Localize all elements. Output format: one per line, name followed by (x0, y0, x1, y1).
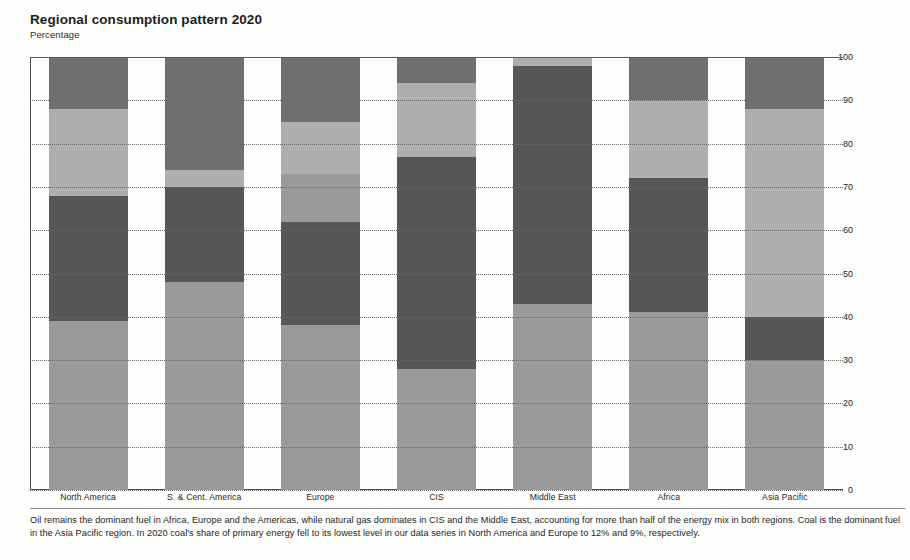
bar-segment-nuclear[interactable] (281, 122, 360, 174)
bar-group-cis[interactable] (378, 57, 494, 490)
stacked-bar[interactable] (165, 57, 244, 490)
stacked-bar[interactable] (397, 57, 476, 490)
bar-segment-oil[interactable] (745, 360, 824, 490)
bar-group-europe[interactable] (262, 57, 378, 490)
x-axis: North AmericaS. & Cent. AmericaEuropeCIS… (30, 492, 843, 502)
chart-subtitle: Percentage (30, 29, 262, 40)
bar-segment-hydro-renewables[interactable] (281, 57, 360, 122)
bar-segment-hydro-renewables[interactable] (629, 57, 708, 100)
stacked-bar[interactable] (745, 57, 824, 490)
bar-segment-nuclear[interactable] (49, 109, 128, 196)
x-label-europe: Europe (262, 492, 378, 502)
bar-group-north-america[interactable] (30, 57, 146, 490)
bar-segment-natural-gas[interactable] (49, 196, 128, 322)
bar-segment-hydro-renewables[interactable] (165, 57, 244, 170)
stacked-bar[interactable] (49, 57, 128, 490)
bar-group-africa[interactable] (611, 57, 727, 490)
bar-group-middle-east[interactable] (495, 57, 611, 490)
x-label-asia-pacific: Asia Pacific (727, 492, 843, 502)
bar-segment-oil[interactable] (513, 304, 592, 490)
gridline-0 (30, 490, 843, 491)
bar-segment-natural-gas[interactable] (745, 317, 824, 360)
stacked-bar[interactable] (281, 57, 360, 490)
y-axis: 0102030405060708090100 (843, 57, 905, 490)
bar-group-asia-pacific[interactable] (727, 57, 843, 490)
bar-segment-natural-gas[interactable] (513, 66, 592, 304)
stacked-bar[interactable] (629, 57, 708, 490)
bar-segment-natural-gas[interactable] (165, 187, 244, 282)
bar-segment-oil[interactable] (281, 325, 360, 490)
bar-segment-coal[interactable] (281, 174, 360, 222)
chart-page: Regional consumption pattern 2020 Percen… (0, 0, 910, 560)
page-title: Regional consumption pattern 2020 (30, 12, 262, 27)
chart-header: Regional consumption pattern 2020 Percen… (30, 12, 262, 40)
bar-segment-nuclear[interactable] (165, 170, 244, 187)
bar-segment-coal[interactable] (745, 109, 824, 317)
bar-segment-oil[interactable] (165, 282, 244, 490)
x-label-s-cent-america: S. & Cent. America (146, 492, 262, 502)
bar-segment-nuclear[interactable] (397, 83, 476, 157)
bar-segment-natural-gas[interactable] (281, 222, 360, 326)
bar-segment-hydro-renewables[interactable] (397, 57, 476, 83)
stacked-bar[interactable] (513, 57, 592, 490)
x-label-africa: Africa (611, 492, 727, 502)
x-label-cis: CIS (378, 492, 494, 502)
bar-segment-oil[interactable] (49, 321, 128, 490)
bar-segment-hydro-renewables[interactable] (513, 57, 592, 66)
bar-segment-natural-gas[interactable] (397, 157, 476, 369)
bar-group-s-cent-america[interactable] (146, 57, 262, 490)
plot-area (30, 57, 843, 490)
bar-segment-oil[interactable] (397, 369, 476, 490)
x-label-middle-east: Middle East (495, 492, 611, 502)
bar-segment-oil[interactable] (629, 312, 708, 490)
bar-segment-hydro-renewables[interactable] (745, 57, 824, 109)
footnote-text: Oil remains the dominant fuel in Africa,… (30, 514, 903, 540)
bar-segment-natural-gas[interactable] (629, 178, 708, 312)
bar-segment-hydro-renewables[interactable] (49, 57, 128, 109)
footnote-divider (30, 508, 905, 509)
bar-segment-nuclear[interactable] (629, 100, 708, 178)
x-label-north-america: North America (30, 492, 146, 502)
stacked-bars (30, 57, 843, 490)
